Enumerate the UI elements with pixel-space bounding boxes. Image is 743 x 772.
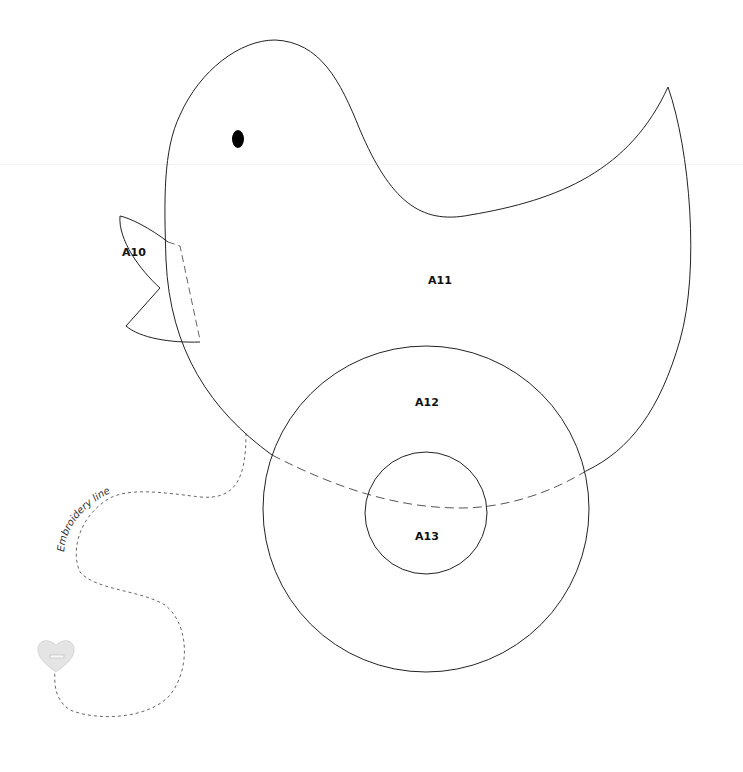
wheel-outer-piece-a12: A12 bbox=[263, 346, 589, 672]
label-a10: A10 bbox=[122, 246, 146, 259]
embroidery-line: Embroidery line bbox=[55, 433, 246, 717]
beak-piece-a10: A10 bbox=[120, 216, 200, 342]
label-a11: A11 bbox=[428, 274, 452, 287]
label-a12: A12 bbox=[415, 396, 439, 409]
wheel-inner-piece-a13: A13 bbox=[365, 452, 487, 574]
body-piece-a11: A11 bbox=[165, 40, 691, 508]
heart-button-icon bbox=[38, 641, 74, 672]
label-a13: A13 bbox=[415, 530, 439, 543]
embroidery-label: Embroidery line bbox=[55, 485, 112, 553]
eye-icon bbox=[232, 130, 244, 148]
pattern-sheet: A10 A11 A12 A13 Embroidery line bbox=[0, 0, 743, 772]
